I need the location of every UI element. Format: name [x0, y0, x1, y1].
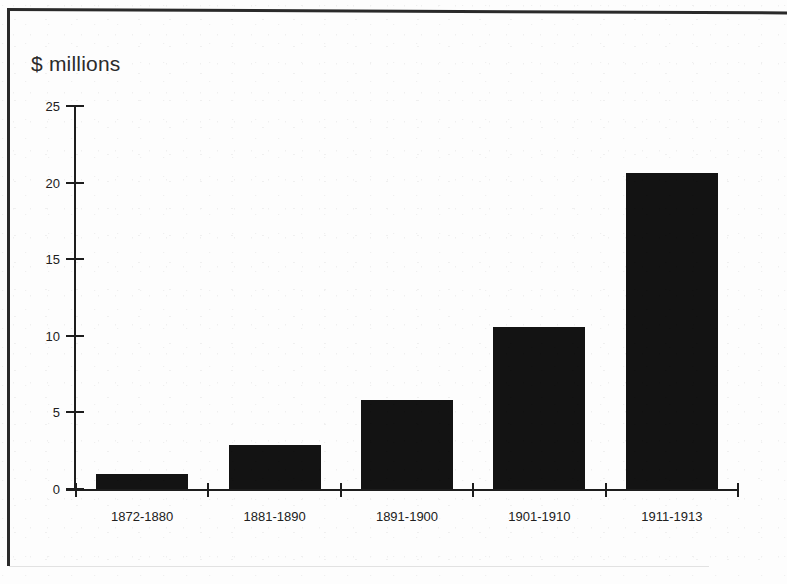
x-axis-category-label: 1911-1913	[641, 509, 702, 524]
x-axis-category-label: 1901-1910	[508, 509, 570, 524]
bar	[493, 327, 585, 489]
x-axis-tick	[605, 483, 607, 497]
y-axis-tick	[66, 105, 84, 107]
bar	[96, 474, 188, 489]
x-axis-tick	[737, 483, 739, 497]
y-axis-tick	[66, 258, 84, 260]
y-axis-tick-label: 15	[28, 252, 60, 267]
x-axis-category-label: 1881-1890	[244, 509, 306, 524]
bar	[626, 173, 718, 489]
y-axis-tick-label: 0	[28, 482, 60, 497]
x-axis-category-label: 1891-1900	[376, 509, 438, 524]
x-axis-line	[66, 489, 738, 491]
y-axis-tick	[66, 335, 84, 337]
y-axis-tick-label: 10	[28, 328, 60, 343]
y-axis-tick-label: 20	[28, 175, 60, 190]
y-axis-tick	[66, 411, 84, 413]
y-axis-tick-label: 5	[28, 405, 60, 420]
x-axis-tick	[472, 483, 474, 497]
x-axis-tick	[340, 483, 342, 497]
plot-area: 05101520251872-18801881-18901891-1900190…	[0, 0, 787, 584]
chart-figure: $ millions 05101520251872-18801881-18901…	[0, 0, 787, 584]
x-axis-category-label: 1872-1880	[111, 509, 173, 524]
bar	[361, 400, 453, 489]
bar	[229, 445, 321, 489]
x-axis-tick	[75, 483, 77, 497]
y-axis-tick	[66, 182, 84, 184]
x-axis-tick	[207, 483, 209, 497]
y-axis-line	[74, 106, 76, 490]
y-axis-tick-label: 25	[28, 99, 60, 114]
